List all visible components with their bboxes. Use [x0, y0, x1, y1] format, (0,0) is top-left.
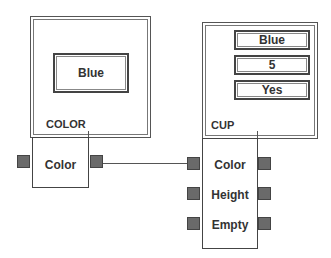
cup-node-port-label-height: Height	[203, 188, 257, 202]
color-node-output-port[interactable]	[90, 155, 103, 168]
cup-empty-input-port[interactable]	[187, 217, 200, 230]
cup-height-field[interactable]: 5	[234, 55, 310, 75]
connection-color-to-cup	[103, 163, 188, 164]
cup-empty-output-port[interactable]	[258, 217, 271, 230]
cup-frame-label: CUP	[211, 119, 234, 131]
cup-node-port-label-empty: Empty	[203, 218, 257, 232]
cup-node-port-label-color: Color	[203, 158, 257, 172]
cup-color-input-port[interactable]	[187, 157, 200, 170]
cup-color-output-port[interactable]	[258, 157, 271, 170]
color-node-input-port[interactable]	[17, 155, 30, 168]
color-value-field[interactable]: Blue	[53, 53, 129, 93]
cup-empty-field[interactable]: Yes	[234, 80, 310, 100]
cup-height-output-port[interactable]	[258, 187, 271, 200]
cup-color-field[interactable]: Blue	[234, 30, 310, 50]
cup-node[interactable]: Color Height Empty	[202, 138, 258, 249]
color-frame-label: COLOR	[46, 118, 86, 130]
cup-height-input-port[interactable]	[187, 187, 200, 200]
color-node-label: Color	[33, 158, 88, 172]
color-node[interactable]: Color	[32, 137, 89, 188]
